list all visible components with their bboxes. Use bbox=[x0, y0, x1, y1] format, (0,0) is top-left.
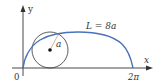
x-end-label: 2π bbox=[127, 72, 139, 82]
cycloid-diagram: y x 0 2π L = 8a a bbox=[0, 0, 158, 83]
x-axis bbox=[12, 66, 153, 71]
cycloid-curve bbox=[23, 32, 133, 68]
x-axis-label: x bbox=[144, 55, 149, 65]
radius-label: a bbox=[56, 39, 61, 49]
y-axis-arrow-icon bbox=[21, 5, 26, 12]
arc-length-label: L = 8a bbox=[85, 21, 116, 31]
x-axis-arrow-icon bbox=[146, 66, 153, 71]
origin-label: 0 bbox=[14, 72, 19, 82]
circle-center-dot bbox=[48, 48, 52, 52]
y-axis-label: y bbox=[27, 4, 34, 14]
